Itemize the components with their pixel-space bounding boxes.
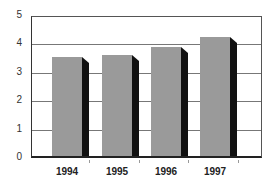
y-tick-label: 5 — [0, 9, 22, 20]
bar-shadow — [132, 61, 139, 156]
x-tick-label: 1997 — [195, 166, 235, 177]
bar-shadow-bevel — [181, 47, 188, 53]
x-tick-label: 1994 — [47, 166, 87, 177]
bar-shadow-bevel — [132, 55, 139, 61]
y-tick-label: 0 — [0, 151, 22, 162]
bar-shadow-bevel — [82, 57, 89, 63]
x-tick-label: 1996 — [146, 166, 186, 177]
y-tick-label: 2 — [0, 94, 22, 105]
bar-shadow-bevel — [230, 37, 237, 43]
bar-1995 — [102, 55, 132, 156]
plot-area — [31, 16, 262, 158]
bar-shadow — [82, 63, 89, 156]
bar-shadow — [230, 43, 237, 156]
x-tick-label: 1995 — [97, 166, 137, 177]
x-tick-mark — [89, 160, 90, 163]
x-tick-mark — [188, 160, 189, 163]
y-tick-label: 1 — [0, 123, 22, 134]
bar-1996 — [151, 47, 181, 156]
bar-1994 — [52, 57, 82, 156]
x-tick-mark — [139, 160, 140, 163]
bar-1997 — [200, 37, 230, 156]
y-tick-label: 3 — [0, 66, 22, 77]
y-tick-label: 4 — [0, 37, 22, 48]
bar-shadow — [181, 53, 188, 156]
bar-chart: 0 1 2 3 4 5 1994 1995 1996 1997 — [0, 0, 276, 190]
x-tick-mark — [238, 160, 239, 163]
